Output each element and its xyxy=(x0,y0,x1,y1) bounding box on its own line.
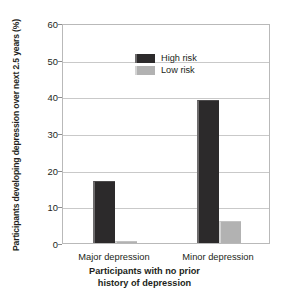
y-tick-label: 0 xyxy=(22,239,58,250)
y-tick-label: 60 xyxy=(22,19,58,30)
legend-label-high-risk: High risk xyxy=(161,54,197,63)
y-tick-label: 20 xyxy=(22,165,58,176)
dark-swatch-icon xyxy=(135,54,155,63)
bar-chart-figure: Participants developing depression over … xyxy=(0,0,289,291)
gridline xyxy=(63,135,269,136)
bar-minor-depression-high-risk xyxy=(197,100,219,243)
x-axis-title-line-2: history of depression xyxy=(0,278,289,290)
legend-label-low-risk: Low risk xyxy=(161,66,195,75)
bar-major-depression-high-risk xyxy=(93,181,115,243)
y-tick-label: 40 xyxy=(22,92,58,103)
y-tick-mark xyxy=(58,244,62,245)
x-axis-title: Participants with no prior history of de… xyxy=(0,266,289,289)
legend-item-low-risk: Low risk xyxy=(135,66,197,75)
category-label: Minor depression xyxy=(182,252,253,262)
x-axis-title-line-1: Participants with no prior xyxy=(0,266,289,278)
y-tick-label: 10 xyxy=(22,202,58,213)
light-swatch-icon xyxy=(135,66,155,75)
y-tick-label: 30 xyxy=(22,129,58,140)
gridline xyxy=(63,172,269,173)
legend: High risk Low risk xyxy=(135,54,197,75)
bar-major-depression-low-risk xyxy=(115,241,137,243)
category-label: Major depression xyxy=(78,252,149,262)
plot-area: High risk Low risk xyxy=(62,24,270,244)
bar-minor-depression-low-risk xyxy=(219,221,241,243)
gridline xyxy=(63,98,269,99)
y-tick-label: 50 xyxy=(22,55,58,66)
legend-item-high-risk: High risk xyxy=(135,54,197,63)
